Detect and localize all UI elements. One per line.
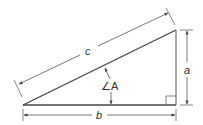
angle-arrow [105, 68, 110, 79]
side-c [23, 30, 176, 105]
label-angle-a: ∠A [101, 80, 119, 92]
label-b: b [96, 109, 102, 121]
dimension-arrow [98, 13, 168, 46]
extension-line [166, 8, 175, 25]
triangle [23, 30, 176, 105]
dimension-a: a [180, 30, 193, 105]
label-c: c [85, 45, 91, 57]
right-angle-marker-icon [166, 96, 176, 105]
label-a: a [184, 64, 190, 76]
dimension-b: b [23, 109, 176, 121]
dimension-arrow [19, 55, 80, 84]
dimension-c: c [14, 8, 175, 97]
angle-a-indicator: ∠A [101, 68, 119, 104]
extension-line [14, 80, 22, 97]
right-triangle-diagram: c a b ∠A [0, 0, 203, 125]
